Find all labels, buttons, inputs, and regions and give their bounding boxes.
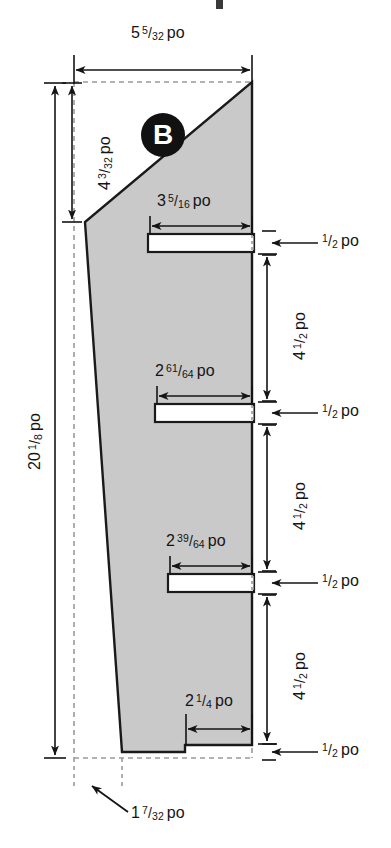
leader-bottom-offset [92, 786, 128, 812]
slot-3 [168, 574, 254, 592]
dim-label-spacing-2: 41/2po [291, 482, 309, 530]
leader-slot-width-2 [262, 401, 318, 425]
dim-label-slot2-length: 261/64po [155, 362, 215, 380]
leader-slot-width-4 [262, 744, 318, 760]
part-label-badge-b: B [141, 113, 185, 157]
dim-label-top-offset: 43/32po [96, 136, 114, 190]
part-drawing-svg [0, 0, 391, 848]
leader-slot-width-1 [262, 231, 318, 255]
dim-label-slot-width-2: 1/2po [322, 402, 359, 420]
dim-label-slot-width-3: 1/2po [322, 572, 359, 590]
dim-spacing-1 [258, 254, 277, 402]
dim-spacing-3 [258, 594, 277, 744]
dim-label-slot-width-4: 1/2po [322, 741, 359, 759]
slot-2 [155, 404, 254, 422]
dim-label-overall-width: 55/32po [131, 24, 185, 42]
construction-ticks [74, 758, 122, 790]
dim-label-spacing-3: 41/2po [291, 652, 309, 700]
dim-label-spacing-1: 41/2po [291, 312, 309, 360]
dim-label-notch-length: 21/4po [185, 692, 233, 710]
leader-slot-width-3 [262, 571, 318, 595]
dim-label-slot1-length: 35/16po [157, 192, 211, 210]
dim-overall-height [44, 83, 66, 758]
scan-artifact-speck [216, 0, 223, 9]
badge-letter: B [153, 121, 173, 149]
technical-drawing-canvas: 55/32po 201/8po 43/32po B 35/16po 261/64… [0, 0, 391, 848]
dim-overall-width [74, 55, 252, 84]
dim-spacing-2 [258, 424, 277, 572]
dim-label-bottom-offset: 17/32po [131, 804, 185, 822]
dim-label-overall-height: 201/8po [26, 413, 44, 470]
dim-label-slot3-length: 239/64po [166, 532, 226, 550]
dim-label-slot-width-1: 1/2po [322, 232, 359, 250]
dim-top-offset [62, 83, 82, 222]
slot-1 [148, 234, 254, 252]
